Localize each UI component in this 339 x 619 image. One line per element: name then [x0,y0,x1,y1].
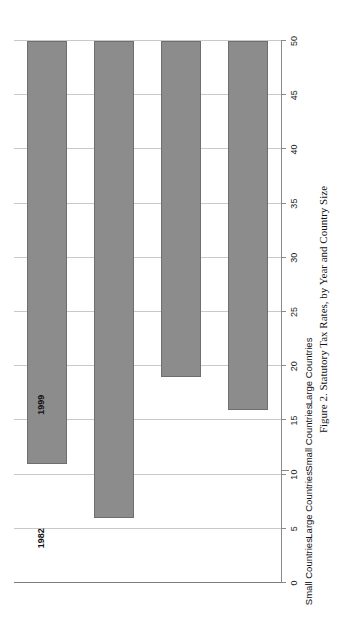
axis-tick-label: 35 [289,189,299,219]
x-axis-line [281,41,282,583]
gridline [14,474,281,475]
category-label: Large Countries [303,296,314,446]
rotated-figure-wrapper: 05101520253035404550 Small CountriesLarg… [0,0,339,619]
group-separator-tick [281,471,289,472]
axis-tick-label: 10 [289,460,299,490]
axis-tick-label: 25 [289,297,299,327]
axis-tick [281,419,286,420]
bar [161,41,201,377]
bar [228,41,268,410]
axis-tick [281,365,286,366]
axis-tick [281,311,286,312]
gridline [14,528,281,529]
axis-tick-label: 45 [289,80,299,110]
axis-tick-label: 5 [289,514,299,544]
axis-tick [281,148,286,149]
gridline [14,582,281,583]
group-label: 1999 [36,360,46,450]
axis-tick [281,94,286,95]
axis-tick [281,40,286,41]
axis-tick [281,582,286,583]
axis-tick-label: 40 [289,134,299,164]
axis-tick [281,474,286,475]
axis-tick [281,528,286,529]
axis-tick-label: 0 [289,568,299,598]
chart-figure: 05101520253035404550 Small CountriesLarg… [0,0,339,619]
axis-tick [281,257,286,258]
axis-tick [281,203,286,204]
axis-tick-label: 30 [289,243,299,273]
bar [27,41,67,464]
axis-tick-label: 50 [289,26,299,56]
axis-tick-label: 20 [289,351,299,381]
bar [94,41,134,518]
axis-tick-label: 15 [289,405,299,435]
group-label: 1982 [36,493,46,583]
figure-caption: Figure 2. Statutory Tax Rates, by Year a… [317,0,329,619]
